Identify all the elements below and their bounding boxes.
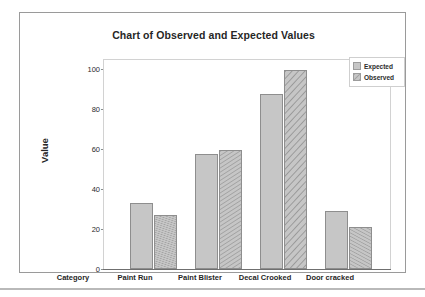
hatch-pattern-icon [155,216,176,268]
y-axis-ticks: 0 20 40 60 80 100 [70,59,100,270]
x-tick-label-paint-run: Paint Run [99,273,171,282]
legend-swatch-expected-icon [353,62,361,70]
chart-title: Chart of Observed and Expected Values [20,29,407,41]
plot-inner [104,60,390,269]
bar-observed-paint-blister[interactable] [219,150,242,269]
y-tick-label-100: 100 [74,65,100,74]
y-axis-title: Value [39,121,50,181]
x-tick-label-decal-crooked: Decal Crooked [229,273,301,282]
page-bottom-divider [0,288,425,290]
bar-expected-decal-crooked[interactable] [260,94,283,269]
hatch-pattern-icon [350,228,371,268]
legend-swatch-observed-icon [353,73,361,81]
bar-expected-paint-run[interactable] [130,203,153,269]
bar-expected-paint-blister[interactable] [195,154,218,269]
chart-document-frame: Chart of Observed and Expected Values Va… [19,12,406,273]
legend-label-expected: Expected [364,63,393,70]
x-tick-label-door-cracked: Door cracked [294,273,366,282]
y-tick-label-40: 40 [74,185,100,194]
bar-expected-door-cracked[interactable] [325,211,348,269]
hatch-pattern-icon [285,71,306,268]
legend-hatch-icon [354,74,360,80]
hatch-pattern-icon [220,151,241,268]
y-tick-label-80: 80 [74,105,100,114]
x-axis-line [103,269,391,270]
plot-area [103,59,391,270]
legend-label-observed: Observed [364,74,394,81]
chart-legend: Expected Observed [349,57,405,87]
bar-observed-paint-run[interactable] [154,215,177,269]
bar-observed-decal-crooked[interactable] [284,70,307,269]
x-tick-label-paint-blister: Paint Blister [164,273,236,282]
legend-item-observed[interactable]: Observed [353,72,401,82]
bar-observed-door-cracked[interactable] [349,227,372,269]
x-axis-title: Category [42,273,104,282]
legend-item-expected[interactable]: Expected [353,61,401,71]
y-tick-label-20: 20 [74,225,100,234]
y-tick-label-60: 60 [74,145,100,154]
